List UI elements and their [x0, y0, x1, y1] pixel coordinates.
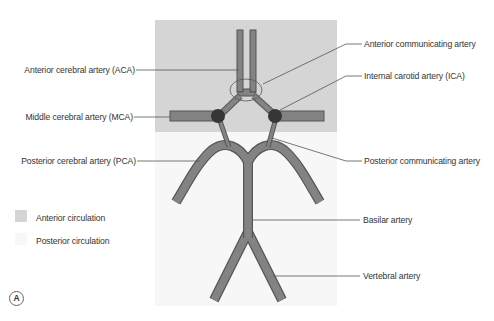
- label-mca: Middle cerebral artery (MCA): [25, 112, 133, 122]
- mca-left: [170, 111, 218, 121]
- ica-node-left: [211, 109, 225, 123]
- label-basilar: Basilar artery: [363, 215, 412, 225]
- label-ica: Internal carotid artery (ICA): [364, 71, 465, 81]
- legend-swatch-anterior: [15, 210, 27, 222]
- legend-swatch-posterior: [15, 233, 27, 245]
- label-vertebral: Vertebral artery: [363, 271, 420, 281]
- label-pcoa: Posterior communicating artery: [364, 156, 480, 166]
- legend-label-anterior: Anterior circulation: [36, 213, 105, 223]
- label-pca: Posterior cerebral artery (PCA): [21, 156, 136, 166]
- label-aca: Anterior cerebral artery (ACA): [24, 65, 135, 75]
- ica-node-right: [268, 109, 282, 123]
- panel-letter: A: [9, 291, 24, 306]
- legend-label-posterior: Posterior circulation: [36, 236, 109, 246]
- label-acoa: Anterior communicating artery: [364, 39, 476, 49]
- mca-right: [276, 111, 324, 121]
